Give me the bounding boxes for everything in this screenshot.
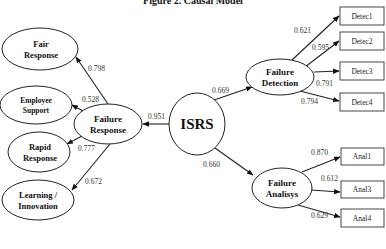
edge-fa-anal3 — [311, 190, 340, 192]
node-rapid-response — [8, 132, 70, 172]
label-employee-support-1: Employee — [20, 96, 52, 105]
edge-fr-rapid-response — [67, 136, 82, 144]
label-anal1: Anal1 — [353, 152, 372, 161]
label-failure-detection-2: Detection — [262, 78, 298, 88]
coef-fd-detec1: 0.621 — [294, 26, 311, 35]
node-failure-analisys — [252, 168, 312, 208]
label-failure-detection-1: Failure — [266, 67, 294, 77]
coef-fa-anal1: 0.870 — [311, 148, 328, 157]
label-learning-innovation-2: Innovation — [18, 201, 58, 211]
label-fair-response-1: Fair — [33, 39, 49, 49]
coef-fd-detec2: 0.595 — [312, 43, 329, 52]
coef-fa-anal3: 0.612 — [321, 174, 338, 183]
coef-fr-rapid-response: 0.777 — [78, 144, 95, 153]
node-employee-support — [0, 86, 72, 124]
coef-fd-detec4: 0.794 — [301, 97, 318, 106]
label-failure-response-2: Response — [90, 125, 126, 135]
coef-fr-learning-innovation: 0.672 — [85, 177, 102, 186]
label-isrs: ISRS — [180, 116, 213, 132]
coef-fr-employee-support: 0.528 — [82, 95, 99, 104]
coef-isrs-failure-analisys: 0.660 — [203, 160, 220, 169]
label-fair-response-2: Response — [24, 50, 58, 60]
node-fair-response — [2, 28, 78, 70]
label-detec2: Detec2 — [351, 37, 372, 46]
edge-fa-anal1 — [302, 157, 340, 172]
label-rapid-response-2: Response — [23, 153, 57, 163]
coef-fr-fair-response: 0.798 — [88, 64, 105, 73]
label-failure-analisys-2: Analisys — [266, 189, 299, 199]
node-learning-innovation — [2, 180, 74, 220]
label-learning-innovation-1: Learning / — [19, 190, 58, 200]
label-detec4: Detec4 — [351, 98, 372, 107]
causal-model-diagram: Figure 2. Causal Model — [0, 0, 386, 249]
coef-isrs-failure-response: 0.951 — [148, 112, 165, 121]
label-failure-response-1: Failure — [94, 114, 122, 124]
label-anal3: Anal3 — [353, 185, 372, 194]
figure-title: Figure 2. Causal Model — [143, 0, 243, 6]
coef-isrs-failure-detection: 0.669 — [212, 86, 229, 95]
edge-isrs-failure-analisys — [215, 148, 253, 175]
node-failure-response — [74, 104, 142, 144]
label-employee-support-2: Support — [23, 106, 50, 115]
label-failure-analisys-1: Failure — [268, 178, 296, 188]
coef-fd-detec3: 0.791 — [316, 79, 333, 88]
edge-fd-detec3 — [314, 71, 339, 72]
label-detec3: Detec3 — [351, 67, 372, 76]
label-anal4: Anal4 — [353, 214, 372, 223]
node-failure-detection — [246, 59, 314, 95]
coef-fa-anal4: 0.629 — [311, 211, 328, 220]
edge-fd-detec1 — [292, 16, 339, 60]
label-rapid-response-1: Rapid — [29, 142, 51, 152]
label-detec1: Detec1 — [351, 12, 372, 21]
